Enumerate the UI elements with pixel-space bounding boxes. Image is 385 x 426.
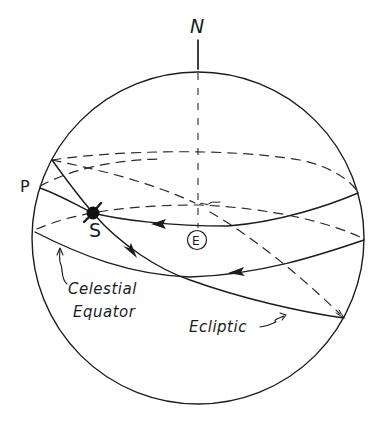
equator-pointer-arrow <box>60 249 67 284</box>
celestial-equator-label-line2: Equator <box>73 303 136 321</box>
point-p-label: P <box>20 177 30 196</box>
ecliptic-back-diagonal <box>210 212 340 314</box>
daily-path-back-from-p <box>40 159 160 186</box>
north-label: N <box>190 15 204 37</box>
daily-path-back-arc <box>52 152 358 192</box>
earth-label: E <box>192 234 200 248</box>
ecliptic-back-upper <box>52 160 195 203</box>
celestial-equator-label-line1: Celestial <box>68 280 137 298</box>
sun-dot <box>87 207 100 220</box>
ecliptic-label: Ecliptic <box>189 318 247 336</box>
axis-base-squiggle <box>200 202 220 204</box>
sun-label: S <box>89 219 101 241</box>
celestial-sphere-diagram: N S P E Celestial Equator Ecliptic <box>0 0 385 426</box>
earth-marker: E <box>188 231 207 250</box>
ecliptic-pointer-arrow <box>260 316 284 327</box>
